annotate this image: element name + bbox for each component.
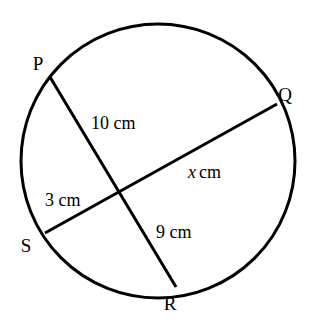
geometry-figure: P Q R S 10 cm xcm 3 cm 9 cm (0, 0, 318, 331)
vertex-label-q: Q (278, 84, 292, 105)
circle-chords-diagram: P Q R S 10 cm xcm 3 cm 9 cm (0, 0, 318, 331)
measure-label-sq-left: 3 cm (45, 190, 81, 210)
canvas-background (0, 0, 318, 331)
measure-unit-x: cm (199, 162, 221, 182)
vertex-label-s: S (21, 235, 32, 256)
vertex-label-p: P (33, 53, 44, 74)
measure-label-pr-lower: 9 cm (156, 222, 192, 242)
measure-label-sq-right: xcm (187, 162, 221, 182)
vertex-label-r: R (164, 293, 177, 314)
measure-label-pr-upper: 10 cm (91, 113, 136, 133)
measure-variable-x: x (187, 162, 196, 182)
